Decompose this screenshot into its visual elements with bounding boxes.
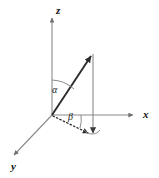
y-axis-line [14,115,52,155]
radius-vector-line [52,56,91,115]
beta-angle-label: β [68,112,73,122]
z-axis-label: z [56,5,60,16]
diagram-canvas [0,0,159,178]
coordinate-system-diagram: z x y α β [0,0,159,178]
y-axis-label: y [11,161,16,172]
beta-angle-arc [80,115,81,128]
alpha-angle-label: α [52,85,57,95]
x-axis-label: x [143,109,149,120]
foot-angle-arc [84,130,100,134]
